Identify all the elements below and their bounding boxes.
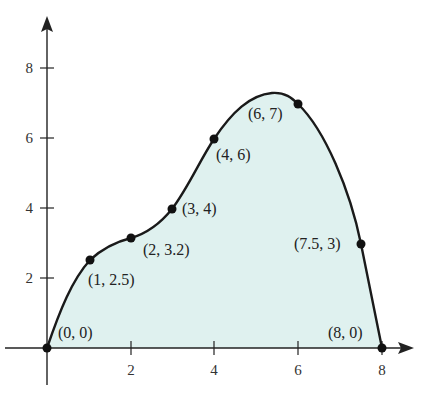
x-tick-label: 6	[294, 362, 302, 378]
point-label: (2, 3.2)	[143, 241, 190, 259]
y-tick-label: 8	[26, 60, 34, 76]
chart: 2 4 6 8 2 4 6 8 (0, 0) (1, 2.5) (2, 3.2)…	[0, 0, 423, 395]
y-tick-label: 6	[26, 130, 34, 146]
data-point	[294, 100, 303, 109]
x-tick-label: 2	[127, 362, 135, 378]
shaded-region	[47, 93, 382, 348]
data-point	[378, 344, 387, 353]
x-tick-label: 4	[210, 362, 218, 378]
point-label: (4, 6)	[216, 146, 251, 164]
point-label: (7.5, 3)	[294, 235, 341, 253]
y-tick-label: 4	[26, 200, 34, 216]
point-label: (1, 2.5)	[88, 271, 135, 289]
data-point	[86, 256, 95, 265]
data-point	[210, 135, 219, 144]
point-label: (3, 4)	[182, 200, 217, 218]
point-label: (0, 0)	[58, 324, 93, 342]
data-point	[127, 234, 136, 243]
y-tick-label: 2	[26, 270, 34, 286]
point-label: (6, 7)	[248, 105, 283, 123]
x-tick-label: 8	[378, 362, 386, 378]
point-label: (8, 0)	[328, 324, 363, 342]
data-point	[43, 344, 52, 353]
data-point	[168, 205, 177, 214]
data-point	[357, 240, 366, 249]
